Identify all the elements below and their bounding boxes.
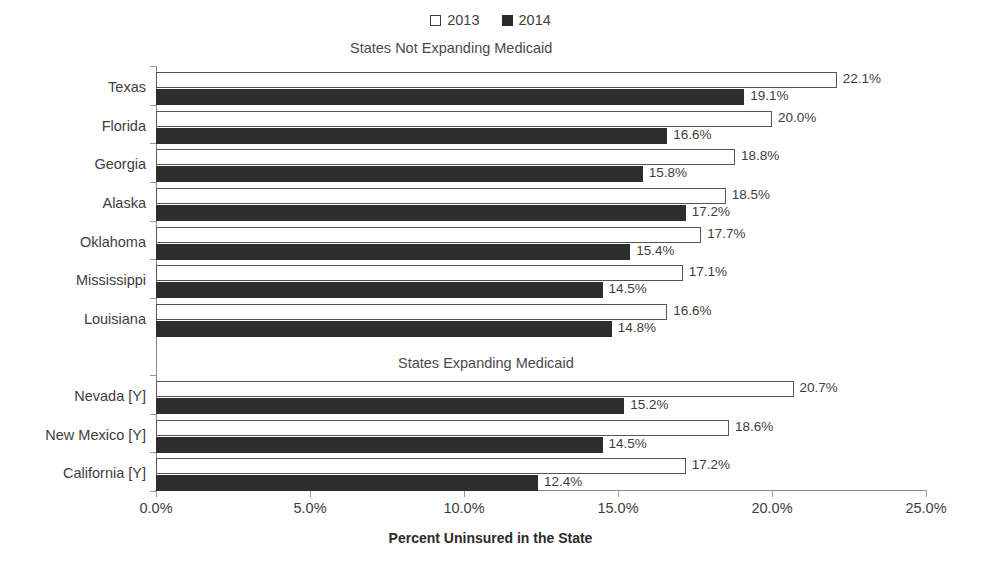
- bar-value-label-2013: 20.0%: [778, 110, 816, 126]
- chart-row[interactable]: 16.6%14.8%: [156, 298, 926, 337]
- bar-2013[interactable]: [156, 111, 772, 127]
- y-axis-tick: [150, 491, 156, 492]
- legend-entry-2013: 2013: [430, 12, 479, 28]
- bar-2014[interactable]: [156, 282, 603, 298]
- legend-swatch-2014-icon: [502, 15, 513, 26]
- bar-value-label-2014: 12.4%: [544, 474, 582, 490]
- category-label: Mississippi: [0, 272, 146, 288]
- chart-row[interactable]: 17.1%14.5%: [156, 259, 926, 298]
- bar-2013[interactable]: [156, 227, 701, 243]
- x-axis-tick-label: 0.0%: [139, 500, 172, 516]
- bar-value-label-2013: 17.2%: [692, 457, 730, 473]
- bar-value-label-2014: 14.5%: [609, 281, 647, 297]
- x-axis-tick: [772, 490, 773, 497]
- x-axis-tick: [926, 490, 927, 497]
- bar-2014[interactable]: [156, 321, 612, 337]
- bar-value-label-2013: 17.7%: [707, 226, 745, 242]
- bar-2014[interactable]: [156, 166, 643, 182]
- bar-chart: 2013 2014 States Not Expanding Medicaid …: [0, 0, 981, 564]
- category-label: Nevada [Y]: [0, 388, 146, 404]
- bar-2013[interactable]: [156, 149, 735, 165]
- chart-row[interactable]: 22.1%19.1%: [156, 66, 926, 105]
- category-label: California [Y]: [0, 465, 146, 481]
- category-label: Florida: [0, 118, 146, 134]
- chart-row[interactable]: 20.0%16.6%: [156, 105, 926, 144]
- category-label: Texas: [0, 79, 146, 95]
- chart-row[interactable]: 18.6%14.5%: [156, 414, 926, 453]
- bar-value-label-2013: 17.1%: [689, 264, 727, 280]
- category-label: Louisiana: [0, 311, 146, 327]
- bar-2013[interactable]: [156, 265, 683, 281]
- x-axis-tick-label: 25.0%: [905, 500, 946, 516]
- chart-row[interactable]: 18.5%17.2%: [156, 182, 926, 221]
- bar-value-label-2013: 18.6%: [735, 419, 773, 435]
- bar-2014[interactable]: [156, 244, 630, 260]
- x-axis-tick-label: 20.0%: [751, 500, 792, 516]
- bar-2014[interactable]: [156, 398, 624, 414]
- category-label: Georgia: [0, 156, 146, 172]
- bar-value-label-2013: 16.6%: [673, 303, 711, 319]
- bar-2013[interactable]: [156, 304, 667, 320]
- category-label: Alaska: [0, 195, 146, 211]
- x-axis-tick-label: 10.0%: [443, 500, 484, 516]
- legend-swatch-2013-icon: [430, 15, 441, 26]
- bar-value-label-2014: 15.2%: [630, 397, 668, 413]
- bar-2014[interactable]: [156, 128, 667, 144]
- chart-row[interactable]: 18.8%15.8%: [156, 143, 926, 182]
- bar-value-label-2014: 17.2%: [692, 204, 730, 220]
- bar-value-label-2013: 18.5%: [732, 187, 770, 203]
- x-axis-tick-label: 5.0%: [293, 500, 326, 516]
- bar-2014[interactable]: [156, 205, 686, 221]
- bar-value-label-2013: 20.7%: [800, 380, 838, 396]
- bar-2013[interactable]: [156, 188, 726, 204]
- bar-value-label-2014: 16.6%: [673, 127, 711, 143]
- bar-value-label-2013: 22.1%: [843, 71, 881, 87]
- chart-row[interactable]: 17.7%15.4%: [156, 221, 926, 260]
- x-axis-title: Percent Uninsured in the State: [0, 530, 981, 546]
- bar-2013[interactable]: [156, 381, 794, 397]
- chart-legend: 2013 2014: [0, 12, 981, 28]
- bar-value-label-2014: 15.4%: [636, 243, 674, 259]
- group-heading-not-expanding: States Not Expanding Medicaid: [350, 40, 552, 56]
- bar-2014[interactable]: [156, 437, 603, 453]
- bar-2013[interactable]: [156, 72, 837, 88]
- legend-entry-2014: 2014: [502, 12, 551, 28]
- bar-value-label-2013: 18.8%: [741, 148, 779, 164]
- bar-value-label-2014: 19.1%: [750, 88, 788, 104]
- category-label: New Mexico [Y]: [0, 427, 146, 443]
- x-axis-tick-label: 15.0%: [597, 500, 638, 516]
- bar-2014[interactable]: [156, 89, 744, 105]
- bar-value-label-2014: 15.8%: [649, 165, 687, 181]
- chart-row[interactable]: 20.7%15.2%: [156, 375, 926, 414]
- bar-2014[interactable]: [156, 475, 538, 491]
- plot-area: 22.1%19.1%20.0%16.6%18.8%15.8%18.5%17.2%…: [156, 66, 926, 491]
- bar-2013[interactable]: [156, 458, 686, 474]
- bar-2013[interactable]: [156, 420, 729, 436]
- legend-label-2013: 2013: [447, 12, 479, 28]
- chart-row[interactable]: 17.2%12.4%: [156, 452, 926, 491]
- legend-label-2014: 2014: [519, 12, 551, 28]
- x-axis-tick: [618, 490, 619, 497]
- category-label: Oklahoma: [0, 234, 146, 250]
- bar-value-label-2014: 14.8%: [618, 320, 656, 336]
- bar-value-label-2014: 14.5%: [609, 436, 647, 452]
